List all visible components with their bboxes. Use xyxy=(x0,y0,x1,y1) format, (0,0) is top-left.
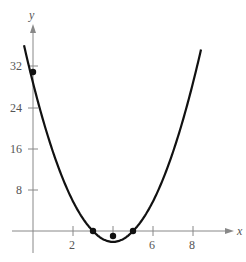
y-axis-arrow-icon xyxy=(30,24,36,33)
svg-text:2: 2 xyxy=(69,238,75,252)
point-root-5 xyxy=(130,228,136,234)
x-axis-label: x xyxy=(236,224,243,238)
point-root-3 xyxy=(90,228,96,234)
x-axis-arrow-icon xyxy=(225,228,234,234)
svg-text:32: 32 xyxy=(10,59,22,73)
parabola-chart: x y 2 6 8 8 16 24 32 xyxy=(0,0,246,262)
svg-text:16: 16 xyxy=(10,142,22,156)
y-axis-label: y xyxy=(28,8,35,22)
point-y-intercept xyxy=(30,69,36,75)
svg-text:8: 8 xyxy=(189,238,195,252)
svg-text:6: 6 xyxy=(149,238,155,252)
y-ticks: 8 16 24 32 xyxy=(10,59,38,197)
marked-points xyxy=(30,69,136,239)
parabola-curve xyxy=(24,45,201,242)
point-vertex xyxy=(110,233,116,239)
svg-text:8: 8 xyxy=(16,183,22,197)
svg-text:24: 24 xyxy=(10,101,22,115)
